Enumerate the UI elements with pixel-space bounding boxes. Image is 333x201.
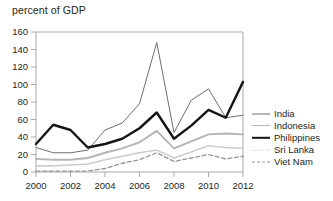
x-tick-label: 2000 [25,180,46,191]
legend-swatch-icon [252,120,270,131]
x-tick-label: 2012 [232,180,253,191]
x-tick-label: 2004 [94,180,115,191]
legend-item-philippines[interactable]: Philippines [252,132,320,143]
y-tick-label: 60 [17,114,28,125]
series-line [36,43,243,153]
y-tick-label: 40 [17,131,28,142]
chart-container: percent of GDP 020406080100120140160 200… [0,0,333,201]
series-line [36,153,243,171]
legend-item-viet-nam[interactable]: Viet Nam [252,156,320,167]
x-tick-label: 2002 [60,180,81,191]
x-axis-ticks [36,172,243,177]
legend-label: Philippines [274,132,320,143]
y-tick-label: 20 [17,149,28,160]
legend-item-indonesia[interactable]: Indonesia [252,120,320,131]
series-line [36,82,243,148]
y-tick-label: 0 [23,166,28,177]
y-tick-label: 80 [17,96,28,107]
chart-plot-area: 020406080100120140160 200020022004200620… [0,0,333,201]
y-axis-tick-labels: 020406080100120140160 [12,26,28,177]
legend-label: Indonesia [274,120,315,131]
x-tick-label: 2008 [163,180,184,191]
legend-item-sri-lanka[interactable]: Sri Lanka [252,144,320,155]
y-tick-label: 100 [12,79,28,90]
chart-legend: IndiaIndonesiaPhilippinesSri LankaViet N… [252,108,320,167]
legend-label: India [274,108,295,119]
legend-swatch-icon [252,156,270,167]
x-axis-tick-labels: 2000200220042006200820102012 [25,180,253,191]
legend-label: Sri Lanka [274,144,314,155]
y-tick-label: 120 [12,61,28,72]
chart-series-group [36,43,243,172]
x-tick-label: 2006 [129,180,150,191]
legend-swatch-icon [252,132,270,143]
y-tick-label: 140 [12,44,28,55]
y-axis-ticks [31,32,36,172]
x-tick-label: 2010 [198,180,219,191]
y-tick-label: 160 [12,26,28,37]
legend-swatch-icon [252,108,270,119]
legend-swatch-icon [252,144,270,155]
legend-label: Viet Nam [274,156,313,167]
legend-item-india[interactable]: India [252,108,320,119]
